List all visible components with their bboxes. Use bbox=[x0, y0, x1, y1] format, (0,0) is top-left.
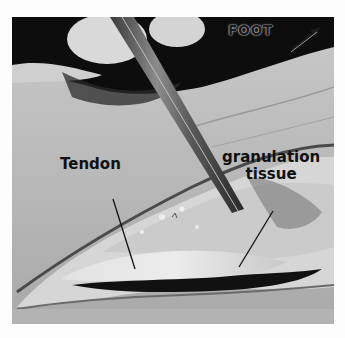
granulation-label-line1: granulation bbox=[222, 149, 320, 166]
foot-direction-label: FOOT bbox=[228, 23, 273, 38]
granulation-tissue-label: granulation tissue bbox=[222, 149, 320, 183]
granulation-label-line2: tissue bbox=[222, 166, 320, 183]
tendon-label: Tendon bbox=[60, 157, 121, 172]
